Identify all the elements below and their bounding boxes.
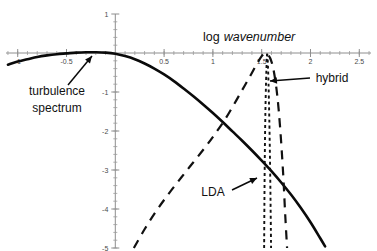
annotation-turbulence-line2: spectrum: [32, 101, 81, 115]
x-tick-label: 2: [309, 58, 313, 65]
curve-lda-left-flank: [264, 54, 267, 248]
annotation-lda: LDA: [201, 185, 224, 199]
x-tick-label: 0.5: [159, 58, 169, 65]
x-tick-label: 1: [211, 58, 215, 65]
curve-lda-right-flank: [267, 54, 271, 248]
tick-labels: -1-0.50.511.522.51-1-2-3-4-5: [15, 11, 365, 251]
x-tick-label: 2.5: [354, 58, 364, 65]
plot-title: logwavenumber: [203, 30, 296, 44]
x-tick-label: -0.5: [60, 58, 72, 65]
figure-canvas: -1-0.50.511.522.51-1-2-3-4-5 logwavenumb…: [0, 0, 377, 251]
annotation-turbulence-line1: turbulence: [29, 84, 85, 98]
data-curves: [8, 52, 325, 248]
annotation-hybrid: hybrid: [316, 71, 349, 85]
y-tick-label: -2: [102, 128, 108, 135]
plot-title-italic: wavenumber: [224, 30, 296, 44]
spectra-plot: -1-0.50.511.522.51-1-2-3-4-5 logwavenumb…: [0, 0, 377, 251]
y-tick-label: 1: [104, 11, 108, 18]
y-tick-label: -1: [102, 89, 108, 96]
y-tick-label: -4: [102, 206, 108, 213]
y-tick-label: -3: [102, 167, 108, 174]
hybrid-arrowhead: [270, 77, 277, 83]
axes: [6, 14, 371, 248]
y-tick-label: -5: [102, 245, 108, 251]
curve-turbulence-spectrum: [8, 52, 325, 246]
plot-title-regular: log: [203, 30, 220, 44]
